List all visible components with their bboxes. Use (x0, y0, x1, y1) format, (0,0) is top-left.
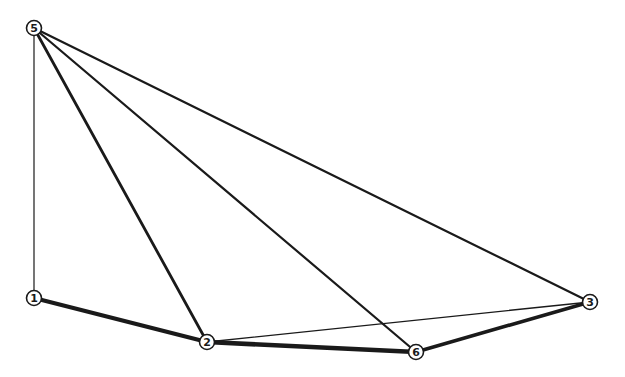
node-2: 2 (200, 335, 215, 350)
edge-2-6 (207, 342, 416, 352)
node-1: 1 (27, 291, 42, 306)
node-label: 3 (586, 296, 594, 309)
edge-6-3 (416, 302, 590, 352)
node-label: 5 (30, 22, 38, 35)
node-5: 5 (27, 21, 42, 36)
node-layer: 51263 (27, 21, 598, 360)
edge-1-2 (34, 298, 207, 342)
node-3: 3 (583, 295, 598, 310)
node-label: 6 (412, 346, 420, 359)
edge-5-2 (34, 28, 207, 342)
node-6: 6 (409, 345, 424, 360)
graph-diagram: 51263 (0, 0, 625, 377)
edge-5-6 (34, 28, 416, 352)
edge-5-3 (34, 28, 590, 302)
node-label: 2 (203, 336, 211, 349)
node-label: 1 (30, 292, 38, 305)
edge-layer (34, 28, 590, 352)
